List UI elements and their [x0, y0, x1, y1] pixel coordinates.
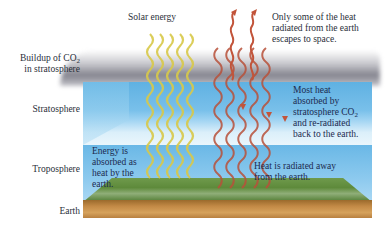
heat-radiated-note: Heat is radiated away from the earth.: [254, 161, 374, 183]
troposphere-label: Troposphere: [2, 164, 80, 175]
energy-absorbed-note: Energy is absorbed as heat by the earth.: [92, 146, 152, 190]
co2-buildup-label: Buildup of CO2 in stratosphere: [2, 53, 80, 75]
earth-label: Earth: [2, 206, 80, 217]
stratosphere-label: Stratosphere: [2, 104, 80, 115]
stratosphere-absorption-note: Most heat absorbed by stratosphere CO2 a…: [293, 85, 388, 140]
heat-escape-note: Only some of the heat radiated from the …: [272, 12, 387, 45]
solar-energy-waves: [147, 34, 193, 178]
solar-energy-label: Solar energy: [128, 12, 176, 23]
